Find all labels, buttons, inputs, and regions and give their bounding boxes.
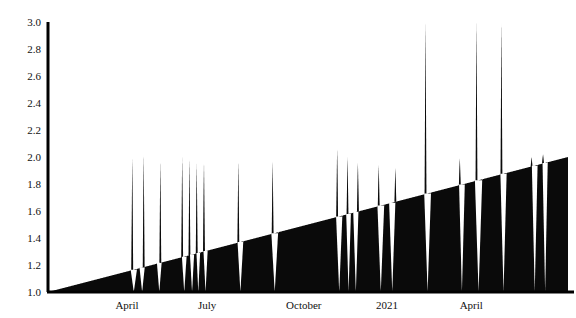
series-spike (476, 22, 478, 181)
series-spike (237, 161, 239, 243)
y-tick-label: 1.4 (27, 232, 41, 244)
y-tick-label: 1.6 (27, 205, 41, 217)
x-tick-label: April (460, 299, 483, 311)
x-tick-label-group: AprilJulyOctober2021April (115, 299, 482, 311)
series-spike (501, 22, 503, 174)
y-tick-label: 1.0 (27, 286, 41, 298)
x-tick-label: October (286, 299, 322, 311)
series-spike (159, 161, 161, 263)
series-spike (394, 168, 396, 202)
series-spike (531, 157, 533, 166)
series-spike (131, 157, 133, 270)
series-area-value (48, 22, 568, 292)
x-tick-label: July (198, 299, 217, 311)
y-tick-label: 2.4 (27, 97, 41, 109)
series-spike (459, 158, 461, 185)
series-spike (542, 154, 544, 163)
chart-container: 1.01.21.41.61.82.02.22.42.62.83.0AprilJu… (0, 0, 576, 318)
series-spike (181, 157, 183, 257)
series-spike (425, 22, 427, 194)
series-spike (272, 161, 274, 234)
series-spike (357, 162, 359, 211)
series-spike (196, 164, 198, 254)
series-spike (203, 162, 205, 251)
y-tick-label: 2.8 (27, 43, 41, 55)
y-tick-label: 2.0 (27, 151, 41, 163)
x-tick-label: April (115, 299, 138, 311)
series-area-group (48, 22, 568, 292)
y-tick-label: 1.8 (27, 178, 41, 190)
series-spike (189, 158, 191, 255)
series-spike (347, 157, 349, 214)
y-tick-label: 2.2 (27, 124, 41, 136)
y-tick-label-group: 1.01.21.41.61.82.02.22.42.62.83.0 (27, 16, 41, 298)
series-spike (336, 149, 338, 217)
y-tick-label: 1.2 (27, 259, 41, 271)
y-tick-label: 2.6 (27, 70, 41, 82)
chart-plot: 1.01.21.41.61.82.02.22.42.62.83.0AprilJu… (0, 0, 576, 318)
series-spike (143, 154, 145, 267)
series-spike (378, 165, 380, 206)
y-tick-label: 3.0 (27, 16, 41, 28)
x-tick-label: 2021 (376, 299, 398, 311)
